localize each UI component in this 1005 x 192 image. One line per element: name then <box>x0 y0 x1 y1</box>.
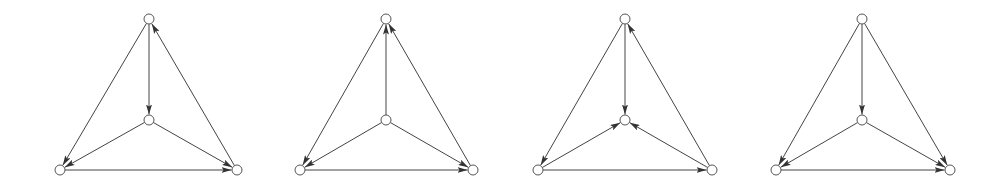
graph-4 <box>771 14 955 175</box>
edge-t-to-bl <box>63 23 147 165</box>
node-br <box>232 165 242 175</box>
node-t <box>857 14 867 24</box>
edge-c-to-br <box>153 123 232 168</box>
node-bl <box>55 165 65 175</box>
node-t <box>381 14 391 24</box>
node-t <box>144 14 154 24</box>
graph-3 <box>533 14 717 175</box>
node-t <box>620 14 630 24</box>
edge-c-to-bl <box>781 123 858 168</box>
edge-br-to-t <box>152 24 235 166</box>
edge-br-to-c <box>630 123 708 168</box>
edge-c-to-br <box>390 123 468 168</box>
edge-c-to-bl <box>305 123 382 168</box>
node-c <box>381 115 391 125</box>
edge-br-to-t <box>389 24 471 166</box>
node-bl <box>771 165 781 175</box>
edge-c-to-bl <box>65 122 145 167</box>
edge-t-to-bl <box>779 23 860 165</box>
node-br <box>707 165 717 175</box>
node-br <box>468 165 478 175</box>
edge-bl-to-c <box>542 123 620 168</box>
node-bl <box>533 165 543 175</box>
node-c <box>620 115 630 125</box>
graphs-layer <box>55 14 955 175</box>
node-br <box>945 165 955 175</box>
graph-1 <box>55 14 242 175</box>
node-bl <box>295 165 305 175</box>
edge-t-to-bl <box>541 23 623 165</box>
edge-br-to-t <box>628 24 710 166</box>
edge-t-to-br <box>865 23 948 165</box>
edge-c-to-br <box>866 123 945 168</box>
node-c <box>144 115 154 125</box>
edge-t-to-bl <box>303 23 384 165</box>
graph-2 <box>295 14 478 175</box>
node-c <box>857 115 867 125</box>
digraph-figure <box>0 0 1005 192</box>
